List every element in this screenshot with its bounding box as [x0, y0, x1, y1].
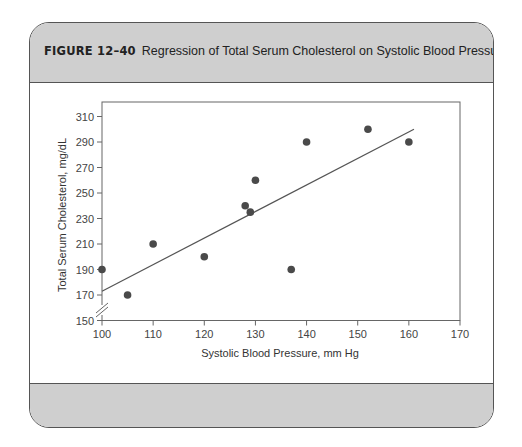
- y-tick-label: 290: [76, 136, 94, 148]
- data-point: [124, 291, 132, 299]
- x-axis-label: Systolic Blood Pressure, mm Hg: [201, 347, 359, 359]
- x-tick-label: 140: [297, 328, 315, 340]
- y-tick-label: 250: [76, 187, 94, 199]
- data-point: [149, 240, 157, 248]
- x-tick-label: 170: [451, 328, 469, 340]
- y-axis-label: Total Serum Cholesterol, mg/dL: [56, 138, 68, 292]
- x-axis-ticks: 100110120130140150160170: [93, 321, 469, 341]
- data-point: [303, 138, 311, 146]
- y-tick-label: 210: [76, 238, 94, 250]
- scatter-chart: 150170190210230250270290310 100110120130…: [0, 0, 522, 447]
- x-tick-label: 130: [246, 328, 264, 340]
- y-tick-label: 150: [76, 315, 94, 327]
- data-point: [200, 253, 208, 261]
- x-tick-label: 120: [195, 328, 213, 340]
- x-tick-label: 160: [400, 328, 418, 340]
- y-tick-label: 270: [76, 162, 94, 174]
- y-axis-ticks: 150170190210230250270290310: [76, 111, 102, 327]
- regression-line: [102, 129, 414, 291]
- axis-break-icon: [96, 303, 108, 317]
- plot-frame: [102, 102, 460, 321]
- y-tick-label: 230: [76, 213, 94, 225]
- data-point: [287, 266, 295, 274]
- x-tick-label: 110: [144, 328, 162, 340]
- x-tick-label: 100: [93, 328, 111, 340]
- data-point: [252, 176, 260, 184]
- data-point: [241, 202, 249, 210]
- y-tick-label: 310: [76, 111, 94, 123]
- data-point: [247, 208, 255, 216]
- data-point: [98, 266, 106, 274]
- data-point: [364, 125, 372, 133]
- y-tick-label: 170: [76, 289, 94, 301]
- y-tick-label: 190: [76, 264, 94, 276]
- data-point: [405, 138, 413, 146]
- x-tick-label: 150: [349, 328, 367, 340]
